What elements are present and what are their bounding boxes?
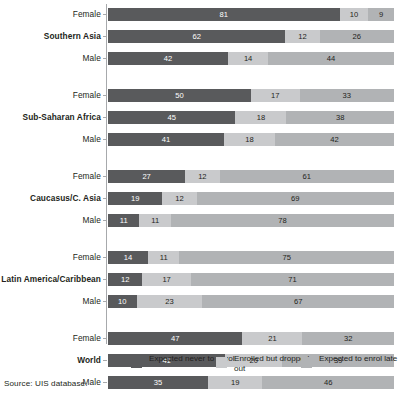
stacked-bar: 421444: [108, 52, 394, 65]
bar-value-label: 17: [162, 273, 170, 286]
bar-segment: 41: [108, 133, 224, 146]
stacked-bar: 191269: [108, 192, 394, 205]
stacked-bar: 141175: [108, 251, 394, 264]
bar-value-label: 62: [192, 30, 200, 43]
chart-row: Female81109: [0, 8, 411, 21]
legend-swatch: [216, 357, 227, 368]
bar-value-label: 12: [121, 273, 129, 286]
axis-tick: [103, 220, 107, 221]
axis-tick: [103, 14, 107, 15]
row-label: Female: [0, 170, 101, 183]
bar-segment: 45: [108, 111, 235, 124]
bar-segment: 19: [108, 192, 162, 205]
chart-container: Female81109Southern Asia621226Male421444…: [0, 0, 411, 395]
bar-segment: 78: [171, 214, 394, 227]
bar-segment: 10: [108, 295, 137, 308]
bar-segment: 11: [139, 214, 170, 227]
bar-value-label: 18: [257, 111, 265, 124]
bar-segment: 32: [302, 332, 394, 345]
bar-value-label: 38: [336, 111, 344, 124]
chart-row: Female141175: [0, 251, 411, 264]
legend-swatch: [131, 357, 142, 368]
axis-tick: [103, 117, 107, 118]
axis-tick: [103, 198, 107, 199]
bar-value-label: 81: [220, 8, 228, 21]
bar-value-label: 11: [160, 251, 168, 264]
bar-value-label: 71: [288, 273, 296, 286]
stacked-bar: 472132: [108, 332, 394, 345]
axis-tick: [103, 176, 107, 177]
chart-row: Male102367: [0, 295, 411, 308]
bar-segment: 14: [108, 251, 148, 264]
bar-segment: 11: [148, 251, 179, 264]
bar-segment: 12: [185, 170, 219, 183]
bar-value-label: 12: [175, 192, 183, 205]
bar-value-label: 11: [120, 214, 128, 227]
row-label: Male: [0, 52, 101, 65]
bar-segment: 18: [235, 111, 286, 124]
stacked-bar: 451838: [108, 111, 394, 124]
bar-value-label: 17: [271, 89, 279, 102]
stacked-bar: 111178: [108, 214, 394, 227]
chart-row: Female472132: [0, 332, 411, 345]
axis-tick: [103, 95, 107, 96]
stacked-bar: 411842: [108, 133, 394, 146]
bar-segment: 27: [108, 170, 185, 183]
bar-value-label: 12: [198, 170, 206, 183]
chart-row: Southern Asia621226: [0, 30, 411, 43]
stacked-bar: 121771: [108, 273, 394, 286]
bar-value-label: 26: [353, 30, 361, 43]
row-label: Male: [0, 295, 101, 308]
plot-area: Female81109Southern Asia621226Male421444…: [0, 0, 411, 348]
axis-tick: [103, 382, 107, 383]
row-label: Female: [0, 8, 101, 21]
row-label: Sub-Saharan Africa: [0, 111, 101, 124]
bar-value-label: 33: [343, 89, 351, 102]
bar-value-label: 42: [330, 133, 338, 146]
axis-tick: [103, 301, 107, 302]
chart-row: Latin America/Caribbean121771: [0, 273, 411, 286]
axis-tick: [103, 338, 107, 339]
bar-value-label: 10: [350, 8, 358, 21]
bar-value-label: 19: [131, 192, 139, 205]
bar-segment: 71: [191, 273, 394, 286]
bar-segment: 38: [286, 111, 394, 124]
row-label: Female: [0, 332, 101, 345]
bar-segment: 33: [300, 89, 394, 102]
bar-segment: 75: [179, 251, 394, 264]
bar-segment: 62: [108, 30, 285, 43]
stacked-bar: 102367: [108, 295, 394, 308]
bar-value-label: 14: [124, 251, 132, 264]
row-label: Southern Asia: [0, 30, 101, 43]
bar-value-label: 10: [118, 295, 126, 308]
bar-value-label: 21: [268, 332, 276, 345]
bar-segment: 21: [242, 332, 302, 345]
source-note: Source: UIS database.: [4, 379, 88, 388]
bar-segment: 12: [162, 192, 196, 205]
axis-tick: [103, 139, 107, 140]
chart-legend: Expected never to enrolEnrolled but drop…: [0, 356, 411, 380]
bar-value-label: 44: [327, 52, 335, 65]
bar-value-label: 18: [245, 133, 253, 146]
bar-value-label: 75: [283, 251, 291, 264]
bar-segment: 17: [251, 89, 300, 102]
axis-tick: [103, 58, 107, 59]
bar-segment: 26: [320, 30, 394, 43]
bar-value-label: 50: [175, 89, 183, 102]
bar-segment: 12: [108, 273, 142, 286]
bar-value-label: 11: [151, 214, 159, 227]
axis-tick: [103, 257, 107, 258]
bar-segment: 14: [228, 52, 268, 65]
chart-row: Male111178: [0, 214, 411, 227]
bar-segment: 42: [275, 133, 394, 146]
bar-value-label: 67: [294, 295, 302, 308]
bar-value-label: 78: [278, 214, 286, 227]
bar-value-label: 42: [164, 52, 172, 65]
bar-segment: 17: [142, 273, 191, 286]
chart-row: Male421444: [0, 52, 411, 65]
bar-segment: 9: [368, 8, 394, 21]
bar-value-label: 14: [244, 52, 252, 65]
stacked-bar: 501733: [108, 89, 394, 102]
bar-value-label: 69: [291, 192, 299, 205]
bar-segment: 10: [340, 8, 369, 21]
